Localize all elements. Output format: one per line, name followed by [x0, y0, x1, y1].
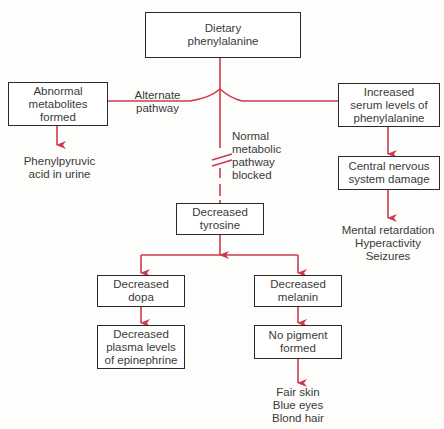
label-pigment-effects: Fair skin Blue eyes Blond hair	[260, 386, 336, 425]
node-decreased-dopa: Decreased dopa	[97, 275, 185, 307]
node-cns-damage: Central nervous system damage	[338, 156, 440, 190]
node-decreased-epinephrine: Decreased plasma levels of epinephrine	[97, 325, 185, 369]
node-no-pigment: No pigment formed	[254, 325, 342, 359]
label-cns-effects: Mental retardation Hyperactivity Seizure…	[330, 224, 444, 263]
label-phenylpyruvic-acid: Phenylpyruvic acid in urine	[12, 155, 107, 181]
node-decreased-tyrosine: Decreased tyrosine	[176, 203, 264, 235]
node-decreased-melanin: Decreased melanin	[254, 275, 342, 307]
node-dietary-phenylalanine: Dietary phenylalanine	[145, 12, 301, 58]
node-increased-serum: Increased serum levels of phenylalanine	[338, 83, 440, 127]
label-alternate-pathway: Alternate pathway	[125, 89, 190, 115]
label-normal-pathway-blocked: Normal metabolic pathway blocked	[232, 130, 288, 182]
node-abnormal-metabolites: Abnormal metabolites formed	[8, 82, 108, 126]
